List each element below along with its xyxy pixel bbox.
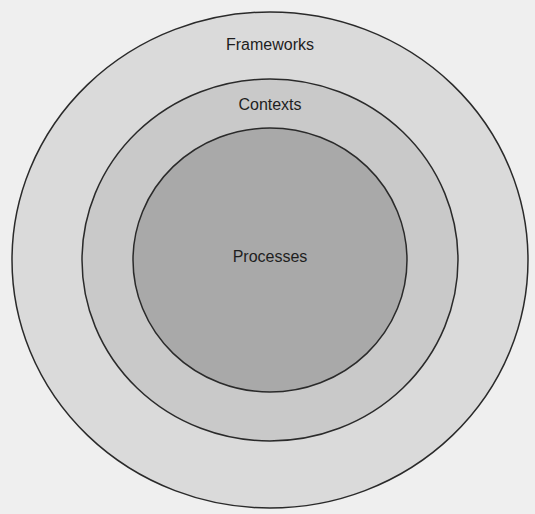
frameworks-label: Frameworks [170,36,370,54]
contexts-label: Contexts [170,96,370,114]
processes-label: Processes [170,248,370,266]
diagram-canvas: Frameworks Contexts Processes [0,0,535,514]
